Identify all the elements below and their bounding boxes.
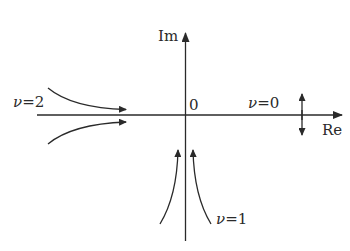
origin-label: 0: [189, 98, 199, 113]
nu-symbol: ν: [13, 93, 22, 111]
nu-symbol: ν: [248, 94, 257, 112]
real-axis-label: Re: [322, 123, 342, 138]
nu1-value: =1: [225, 210, 247, 228]
nu-symbol: ν: [216, 210, 225, 228]
nu0-value: =0: [257, 94, 279, 112]
nu1-label: ν=1: [216, 212, 247, 227]
imaginary-axis-label: Im: [158, 29, 178, 44]
nu2-lower-trajectory-arrow: [48, 122, 126, 144]
nu2-value: =2: [22, 93, 44, 111]
nu0-label: ν=0: [248, 96, 279, 111]
nu1-left-trajectory-arrow: [160, 150, 178, 224]
nu2-label: ν=2: [13, 95, 44, 110]
nu2-upper-trajectory-arrow: [48, 88, 126, 110]
nu1-right-trajectory-arrow: [193, 150, 211, 224]
